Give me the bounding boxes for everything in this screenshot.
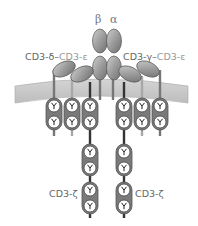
cd3-gamma-text: CD3-γ — [123, 51, 152, 62]
tcr-beta-chain — [93, 29, 108, 80]
cd3-zeta-left-label: CD3-ζ — [49, 189, 78, 199]
cd3-zeta-right-label: CD3-ζ — [135, 189, 164, 199]
cd3-delta-epsilon-label: CD3-δ–CD3-ε — [25, 52, 88, 62]
beta-label: β — [95, 14, 101, 25]
cd3-gamma-epsilon-label: CD3-γ–CD3-ε — [123, 52, 185, 62]
alpha-label: α — [110, 14, 117, 25]
cd3-epsilon-text: CD3-ε — [157, 51, 186, 62]
cd3-delta-text: CD3-δ — [25, 51, 54, 62]
tcr-cd3-diagram — [0, 0, 198, 226]
cd3-epsilon-text: CD3-ε — [59, 51, 88, 62]
